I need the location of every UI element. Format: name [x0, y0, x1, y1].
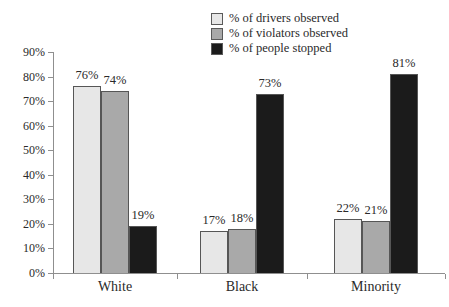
bar — [362, 221, 390, 273]
legend-swatch-medium-gray — [211, 28, 223, 40]
y-axis-line — [53, 52, 54, 274]
bar — [256, 94, 284, 273]
x-axis-tick — [53, 274, 54, 279]
y-axis-tick — [48, 101, 53, 102]
legend-swatch-black — [211, 43, 223, 55]
y-axis-tick — [48, 199, 53, 200]
legend-label: % of drivers observed — [229, 11, 339, 26]
bar — [228, 229, 256, 273]
bar-value-label: 74% — [93, 73, 137, 87]
bar — [73, 86, 101, 273]
legend-swatch-light-gray — [211, 13, 223, 25]
y-axis-tick-label: 0% — [5, 267, 45, 280]
bar-value-label: 81% — [382, 56, 426, 70]
chart-legend: % of drivers observed % of violators obs… — [211, 11, 348, 56]
x-category-label: White — [60, 279, 170, 295]
bar-value-label: 73% — [248, 76, 292, 90]
y-axis-tick — [48, 224, 53, 225]
legend-item-people-stopped: % of people stopped — [211, 41, 348, 56]
y-axis-tick-label: 80% — [5, 71, 45, 84]
y-axis-tick — [48, 52, 53, 53]
y-axis-tick-label: 50% — [5, 144, 45, 157]
y-axis-tick-label: 40% — [5, 169, 45, 182]
legend-item-violators-observed: % of violators observed — [211, 26, 348, 41]
bar — [101, 91, 129, 273]
x-axis-tick — [307, 274, 308, 279]
legend-label: % of violators observed — [229, 26, 348, 41]
y-axis-tick — [48, 175, 53, 176]
y-axis-tick — [48, 248, 53, 249]
bar-value-label: 19% — [121, 208, 165, 222]
y-axis-tick-label: 60% — [5, 120, 45, 133]
x-axis-tick — [445, 274, 446, 279]
legend-label: % of people stopped — [229, 41, 331, 56]
x-category-label: Black — [187, 279, 297, 295]
bar — [334, 219, 362, 273]
legend-item-drivers-observed: % of drivers observed — [211, 11, 348, 26]
y-axis-tick — [48, 77, 53, 78]
y-axis-tick — [48, 126, 53, 127]
x-axis-line — [53, 273, 445, 274]
x-category-label: Minority — [321, 279, 431, 295]
y-axis-tick-label: 10% — [5, 242, 45, 255]
y-axis-tick-label: 30% — [5, 193, 45, 206]
y-axis-tick-label: 20% — [5, 218, 45, 231]
y-axis-tick-label: 70% — [5, 95, 45, 108]
bar — [200, 231, 228, 273]
bar — [129, 226, 157, 273]
y-axis-tick — [48, 150, 53, 151]
bar-chart: % of drivers observed % of violators obs… — [0, 0, 449, 307]
y-axis-tick-label: 90% — [5, 46, 45, 59]
bar — [390, 74, 418, 273]
x-axis-tick — [177, 274, 178, 279]
